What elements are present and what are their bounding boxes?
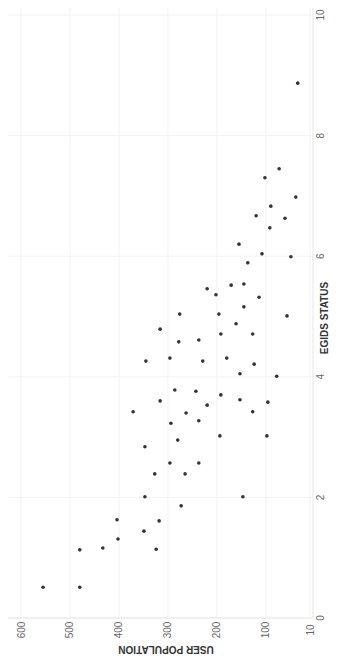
data-point	[205, 403, 209, 407]
data-point	[241, 495, 245, 499]
data-point	[296, 81, 300, 85]
data-point	[219, 393, 223, 397]
x-tick-label: 6	[315, 253, 326, 259]
data-point	[275, 374, 279, 378]
data-point	[143, 445, 147, 449]
data-point	[252, 362, 256, 366]
data-point	[263, 176, 267, 180]
data-point	[173, 388, 177, 392]
data-point	[205, 287, 209, 291]
x-tick-label: 8	[315, 132, 326, 138]
x-tick-label: 0	[315, 615, 326, 621]
data-point	[242, 282, 246, 286]
data-point	[246, 261, 250, 265]
data-point	[254, 214, 258, 218]
data-point	[294, 195, 298, 199]
data-point	[176, 438, 180, 442]
data-point	[177, 340, 181, 344]
x-tick-label: 4	[315, 374, 326, 380]
grid-lines	[8, 8, 313, 618]
data-point	[178, 312, 182, 316]
data-point	[197, 461, 201, 465]
y-tick-label: 400	[113, 621, 124, 638]
y-tick-label: 600	[16, 621, 27, 638]
data-point	[285, 314, 289, 318]
data-point	[214, 293, 218, 297]
data-point	[168, 461, 172, 465]
data-point	[153, 472, 157, 476]
data-point	[225, 356, 229, 360]
scatter-chart: 0246810 10100200300400500600 EGIDS STATU…	[0, 0, 353, 658]
x-axis-title: EGIDS STATUS	[319, 281, 330, 354]
data-point	[154, 547, 158, 551]
data-point	[265, 434, 269, 438]
data-point	[169, 421, 173, 425]
data-point	[115, 518, 119, 522]
x-tick-label: 10	[315, 9, 326, 21]
y-tick-label: 500	[64, 621, 75, 638]
data-points	[41, 81, 299, 589]
data-point	[257, 295, 261, 299]
data-point	[260, 252, 264, 256]
data-point	[41, 585, 45, 589]
data-point	[242, 305, 246, 309]
data-point	[116, 537, 120, 541]
y-axis-ticks: 10100200300400500600	[16, 621, 316, 638]
data-point	[184, 411, 188, 415]
data-point	[131, 410, 135, 414]
y-tick-label: 100	[260, 621, 271, 638]
data-point	[194, 389, 198, 393]
data-point	[78, 548, 82, 552]
data-point	[179, 504, 183, 508]
data-point	[144, 359, 148, 363]
data-point	[158, 327, 162, 331]
data-point	[277, 167, 281, 171]
data-point	[143, 495, 147, 499]
data-point	[237, 242, 241, 246]
data-point	[268, 226, 272, 230]
data-point	[217, 312, 221, 316]
data-point	[229, 283, 233, 287]
y-tick-label: 10	[305, 624, 316, 636]
data-point	[197, 338, 201, 342]
data-point	[234, 322, 238, 326]
x-tick-label: 2	[315, 494, 326, 500]
data-point	[251, 410, 255, 414]
y-tick-label: 200	[211, 621, 222, 638]
data-point	[168, 356, 172, 360]
data-point	[201, 359, 205, 363]
y-tick-label: 300	[162, 621, 173, 638]
data-point	[251, 332, 255, 336]
data-point	[238, 372, 242, 376]
data-point	[101, 546, 105, 550]
data-point	[266, 400, 270, 404]
data-point	[238, 398, 242, 402]
data-point	[219, 332, 223, 336]
data-point	[78, 585, 82, 589]
data-point	[218, 434, 222, 438]
data-point	[197, 419, 201, 423]
data-point	[183, 472, 187, 476]
y-axis-title: USER POPULATION	[118, 644, 213, 655]
data-point	[283, 216, 287, 220]
data-point	[158, 399, 162, 403]
data-point	[289, 255, 293, 259]
data-point	[269, 204, 273, 208]
data-point	[142, 529, 146, 533]
data-point	[157, 519, 161, 523]
